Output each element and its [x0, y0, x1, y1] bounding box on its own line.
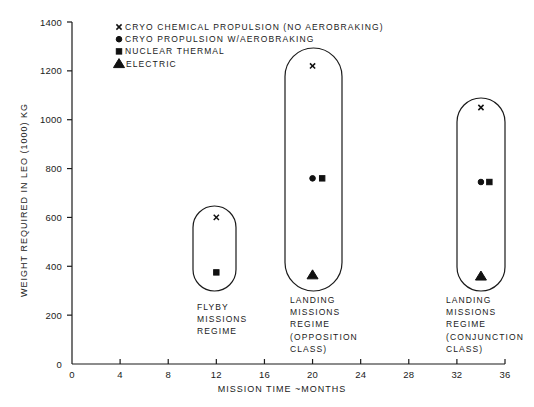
y-tick-label: 0 — [57, 359, 62, 370]
opposition-regime-label: LANDINGMISSIONSREGIME(OPPOSITIONCLASS) — [290, 295, 358, 354]
regime-label-line: CLASS) — [446, 344, 483, 354]
x-legend-icon — [116, 24, 121, 29]
regime-label-line: REGIME — [290, 319, 330, 329]
regime-label-line: REGIME — [446, 319, 486, 329]
x-tick-label: 20 — [307, 369, 318, 380]
y-axis-ticks: 0200400600800100012001400 — [40, 17, 72, 370]
conjunction-enclosure — [457, 98, 505, 291]
x-tick-label: 16 — [259, 369, 270, 380]
x-axis-title: MISSION TIME ~MONTHS — [218, 384, 347, 394]
mission-weight-chart: 0200400600800100012001400 04812162024283… — [0, 0, 534, 407]
triangle-legend-icon — [114, 59, 125, 68]
x-axis-ticks: 04812162024283236 — [69, 359, 510, 380]
y-axis-title: WEIGHT REQUIRED IN LEO (1000) KG — [19, 103, 29, 297]
regime-label-line: (CONJUNCTION — [446, 332, 524, 342]
flyby-regime-label: FLYBYMISSIONSREGIME — [197, 302, 247, 336]
x-tick-label: 0 — [69, 369, 74, 380]
conjunction-regime-label: LANDINGMISSIONSREGIME(CONJUNCTIONCLASS) — [446, 295, 524, 354]
regime-label-line: LANDING — [290, 295, 336, 305]
circle-data-point — [310, 176, 316, 182]
square-data-point — [214, 270, 219, 275]
circle-data-point — [478, 179, 484, 185]
x-tick-label: 4 — [117, 369, 122, 380]
x-tick-label: 24 — [355, 369, 366, 380]
axes — [72, 22, 505, 364]
y-tick-label: 400 — [46, 261, 62, 272]
legend: CRYO CHEMICAL PROPULSION (NO AEROBRAKING… — [114, 22, 384, 69]
y-tick-label: 1000 — [40, 114, 62, 125]
regime-label-line: (OPPOSITION — [290, 332, 358, 342]
data-points — [214, 63, 492, 280]
y-tick-label: 600 — [46, 212, 62, 223]
opposition-enclosure — [285, 48, 342, 291]
regime-label-line: CLASS) — [290, 344, 327, 354]
x-data-point — [310, 63, 315, 68]
regime-label-line: MISSIONS — [197, 314, 247, 324]
y-tick-label: 200 — [46, 310, 62, 321]
circle-legend-icon — [116, 36, 122, 42]
regime-label-line: MISSIONS — [290, 307, 340, 317]
regime-label-line: MISSIONS — [446, 307, 496, 317]
square-legend-icon — [116, 49, 121, 54]
legend-label: CRYO CHEMICAL PROPULSION (NO AEROBRAKING… — [125, 22, 384, 32]
x-tick-label: 8 — [165, 369, 170, 380]
x-data-point — [478, 105, 483, 110]
triangle-data-point — [307, 270, 318, 279]
y-tick-label: 1400 — [40, 17, 62, 28]
regime-label-line: REGIME — [197, 326, 237, 336]
legend-label: CRYO PROPULSION W/AEROBRAKING — [125, 34, 315, 44]
legend-label: ELECTRIC — [126, 59, 177, 69]
triangle-data-point — [475, 271, 486, 280]
square-data-point — [319, 176, 324, 181]
regime-enclosures — [193, 48, 505, 291]
legend-label: NUCLEAR THERMAL — [125, 46, 225, 56]
square-data-point — [487, 179, 492, 184]
y-tick-label: 800 — [46, 163, 62, 174]
y-tick-label: 1200 — [40, 65, 62, 76]
regime-labels: FLYBYMISSIONSREGIMELANDINGMISSIONSREGIME… — [197, 295, 524, 354]
x-tick-label: 36 — [500, 369, 511, 380]
x-tick-label: 32 — [451, 369, 462, 380]
x-tick-label: 28 — [403, 369, 414, 380]
x-tick-label: 12 — [211, 369, 222, 380]
regime-label-line: LANDING — [446, 295, 492, 305]
x-data-point — [214, 215, 219, 220]
regime-label-line: FLYBY — [197, 302, 229, 312]
